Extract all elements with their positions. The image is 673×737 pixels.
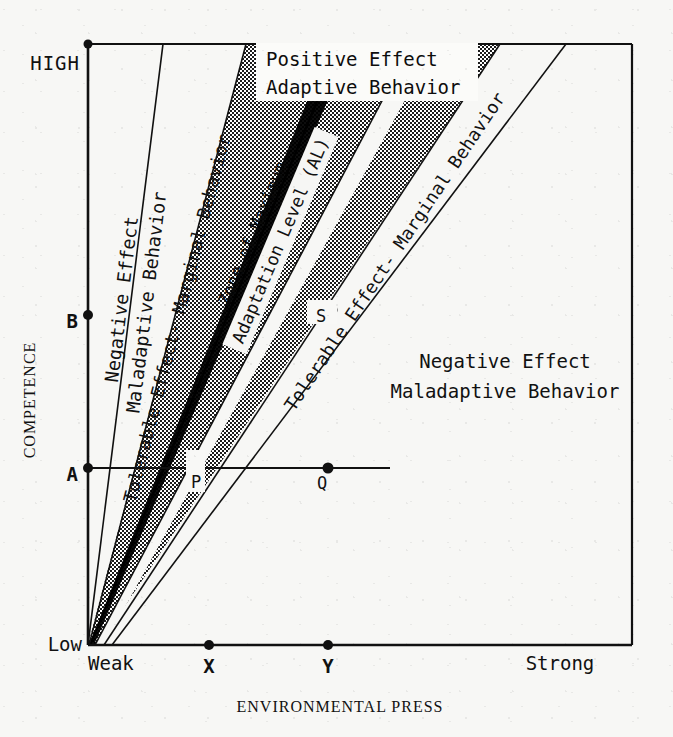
x-right-label: Strong (526, 652, 595, 674)
x-tick-x-label: X (203, 655, 215, 677)
positive-box-line1: Positive Effect (266, 48, 438, 70)
x-left-label: Weak (88, 652, 134, 674)
y-tick-b-label: B (67, 310, 78, 332)
positive-effect-callout: Positive Effect Adaptive Behavior (256, 43, 478, 101)
point-q-label: Q (317, 473, 327, 493)
data-point-q (323, 463, 334, 474)
svg-text:Negative Effect: Negative Effect (419, 350, 591, 372)
x-tick-y-label: Y (322, 655, 334, 677)
x-axis-title: ENVIRONMENTAL PRESS (237, 698, 444, 715)
positive-box-line2: Adaptive Behavior (266, 76, 460, 98)
svg-text:Maladaptive Behavior: Maladaptive Behavior (391, 380, 620, 402)
point-s-label: S (316, 306, 326, 326)
tick-dot-y (323, 640, 333, 650)
y-bottom-label: Low (48, 633, 83, 655)
tick-dot-b (83, 310, 93, 320)
tick-dot-a (83, 463, 93, 473)
press-competence-diagram: HIGH B A Low Weak X Y Strong COMPETENCE … (0, 0, 673, 737)
y-axis-title: COMPETENCE (21, 342, 38, 459)
point-p-label: P (191, 472, 201, 492)
tick-dot-high (84, 40, 93, 49)
y-top-label: HIGH (30, 52, 80, 74)
tick-dot-x (204, 640, 214, 650)
y-tick-a-label: A (67, 463, 79, 485)
